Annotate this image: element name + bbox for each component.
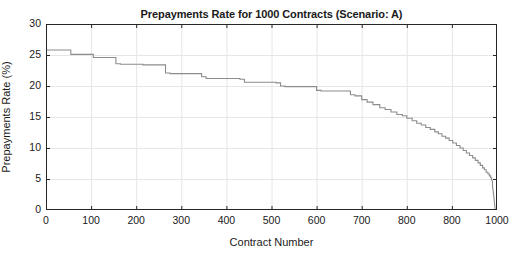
x-tick-label: 800 — [387, 214, 427, 226]
y-tick-label: 10 — [15, 141, 41, 153]
x-tick-label: 100 — [71, 214, 111, 226]
x-tick-label: 700 — [342, 214, 382, 226]
x-tick-label: 300 — [161, 214, 201, 226]
x-tick-label: 200 — [116, 214, 156, 226]
x-tick-label: 1000 — [477, 214, 517, 226]
figure-canvas: Prepayments Rate for 1000 Contracts (Sce… — [0, 0, 525, 262]
x-tick-label: 800 — [432, 214, 472, 226]
y-tick-label: 20 — [15, 79, 41, 91]
chart-title: Prepayments Rate for 1000 Contracts (Sce… — [46, 8, 497, 20]
x-tick-label: 0 — [26, 214, 66, 226]
y-tick-label: 25 — [15, 48, 41, 60]
y-tick-label: 15 — [15, 110, 41, 122]
x-axis-label: Contract Number — [46, 236, 497, 248]
plot-svg — [46, 24, 497, 210]
x-tick-label: 400 — [206, 214, 246, 226]
x-tick-label: 600 — [297, 214, 337, 226]
y-tick-label: 5 — [15, 172, 41, 184]
x-tick-label: 500 — [252, 214, 292, 226]
y-tick-label: 30 — [15, 17, 41, 29]
y-axis-label: Prepayments Rate (%) — [0, 24, 14, 210]
plot-area — [46, 24, 497, 210]
